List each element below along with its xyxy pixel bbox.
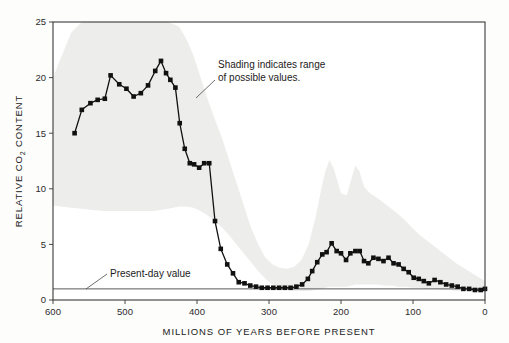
y-tick-label: 20 <box>35 72 46 83</box>
data-point-marker <box>117 82 122 87</box>
data-point-marker <box>236 280 241 285</box>
data-point-marker <box>444 282 449 287</box>
data-point-marker <box>357 249 362 254</box>
data-point-marker <box>95 98 100 103</box>
data-point-marker <box>153 69 158 74</box>
data-point-marker <box>218 247 223 252</box>
data-point-marker <box>139 91 144 96</box>
data-point-marker <box>438 280 443 285</box>
data-point-marker <box>450 283 455 288</box>
y-tick-label: 15 <box>35 128 46 139</box>
data-point-marker <box>300 282 305 287</box>
x-tick-label: 600 <box>45 306 61 317</box>
co2-history-chart: 0510152025 6005004003002001000 Shading i… <box>0 0 509 343</box>
data-point-marker <box>192 162 197 167</box>
data-point-marker <box>315 260 320 265</box>
data-point-marker <box>213 219 218 224</box>
data-point-marker <box>288 285 293 290</box>
data-point-marker <box>173 85 178 90</box>
data-point-marker <box>422 279 427 284</box>
y-tick-label: 0 <box>41 294 46 305</box>
present-day-annotation-label: Present-day value <box>110 268 191 279</box>
x-tick-label: 0 <box>482 306 487 317</box>
data-point-marker <box>334 249 339 254</box>
data-point-marker <box>260 285 265 290</box>
data-point-marker <box>467 287 472 292</box>
data-point-marker <box>177 121 182 126</box>
data-point-marker <box>371 255 376 260</box>
data-point-marker <box>329 241 334 246</box>
data-point-marker <box>242 281 247 286</box>
data-point-marker <box>473 288 478 293</box>
data-point-marker <box>124 86 129 91</box>
data-point-marker <box>339 251 344 256</box>
data-point-marker <box>202 161 207 166</box>
data-point-marker <box>344 258 349 263</box>
data-point-marker <box>320 252 325 257</box>
y-tick-label: 5 <box>41 239 46 250</box>
data-point-marker <box>159 59 164 64</box>
x-tick-label: 400 <box>189 306 205 317</box>
data-point-marker <box>271 285 276 290</box>
x-tick-label: 300 <box>261 306 277 317</box>
data-point-marker <box>391 261 396 266</box>
data-point-marker <box>294 284 299 289</box>
shading-annotation-line1: Shading indicates range <box>218 59 326 70</box>
data-point-marker <box>376 257 381 262</box>
data-point-marker <box>197 165 202 170</box>
data-point-marker <box>88 101 93 106</box>
shading-annotation-line2: of possible values. <box>218 72 300 83</box>
data-point-marker <box>131 94 136 99</box>
data-point-marker <box>348 251 353 256</box>
x-tick-label: 200 <box>333 306 349 317</box>
data-point-marker <box>225 262 230 267</box>
data-point-marker <box>164 71 169 76</box>
data-point-marker <box>72 131 77 136</box>
y-tick-label: 10 <box>35 183 46 194</box>
data-point-marker <box>265 285 270 290</box>
data-point-marker <box>478 288 483 293</box>
data-point-marker <box>108 73 113 78</box>
data-point-marker <box>416 277 421 282</box>
y-tick-label: 25 <box>35 16 46 27</box>
data-point-marker <box>455 284 460 289</box>
data-point-marker <box>207 161 212 166</box>
x-axis-title: MILLIONS OF YEARS BEFORE PRESENT <box>163 326 376 337</box>
data-point-marker <box>103 96 108 101</box>
data-point-marker <box>324 250 329 255</box>
data-point-marker <box>168 78 173 83</box>
data-point-marker <box>427 281 432 286</box>
data-point-marker <box>306 277 311 282</box>
data-point-marker <box>353 249 358 254</box>
data-point-marker <box>386 255 391 260</box>
chart-canvas: 0510152025 6005004003002001000 Shading i… <box>0 0 509 343</box>
data-point-marker <box>461 287 466 292</box>
data-point-marker <box>188 161 193 166</box>
y-axis-title-post: CONTENT <box>13 95 24 151</box>
data-point-marker <box>182 146 187 151</box>
data-point-marker <box>231 271 236 276</box>
data-point-marker <box>254 284 259 289</box>
data-point-marker <box>80 108 85 113</box>
data-point-marker <box>283 285 288 290</box>
data-point-marker <box>366 261 371 266</box>
data-point-marker <box>401 267 406 272</box>
data-point-marker <box>146 83 151 88</box>
data-point-marker <box>406 270 411 275</box>
data-point-marker <box>248 283 253 288</box>
data-point-marker <box>396 262 401 267</box>
x-tick-label: 100 <box>405 306 421 317</box>
data-point-marker <box>432 278 437 283</box>
data-point-marker <box>310 269 315 274</box>
data-point-marker <box>362 259 367 264</box>
x-tick-label: 500 <box>117 306 133 317</box>
data-point-marker <box>381 259 386 264</box>
data-point-marker <box>277 285 282 290</box>
y-axis-title-pre: RELATIVE CO <box>13 155 24 227</box>
data-point-marker <box>411 275 416 280</box>
